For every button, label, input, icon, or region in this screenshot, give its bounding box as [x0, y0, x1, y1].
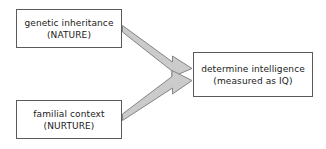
node-genetic-inheritance[interactable]: genetic inheritance (NATURE) — [16, 9, 122, 48]
node-genetic-inheritance-line2: (NATURE) — [47, 29, 91, 41]
arrow-nurture-to-outcome — [123, 71, 193, 121]
node-familial-context[interactable]: familial context (NURTURE) — [16, 100, 122, 139]
diagram-canvas: genetic inheritance (NATURE) familial co… — [0, 0, 326, 149]
node-determine-intelligence[interactable]: determine intelligence (measured as IQ) — [193, 52, 313, 97]
node-familial-context-line1: familial context — [33, 108, 104, 120]
arrow-nature-to-outcome — [123, 26, 193, 78]
node-determine-intelligence-line2: (measured as IQ) — [213, 75, 292, 87]
node-genetic-inheritance-line1: genetic inheritance — [24, 17, 113, 29]
node-familial-context-line2: (NURTURE) — [44, 120, 95, 132]
node-determine-intelligence-line1: determine intelligence — [201, 63, 305, 75]
